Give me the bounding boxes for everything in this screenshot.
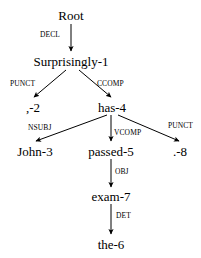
edge-label-e-obj: OBJ bbox=[115, 168, 129, 176]
dependency-tree-diagram: RootSurprisingly-1,-2has-4John-3passed-5… bbox=[0, 0, 201, 258]
edge-label-e-det: DET bbox=[116, 212, 131, 220]
edge-label-e-nsubj: NSUBJ bbox=[28, 124, 51, 132]
edge-label-e-vcomp: VCOMP bbox=[114, 129, 141, 137]
tree-node-period8: .-8 bbox=[173, 145, 187, 158]
tree-node-surprisingly1: Surprisingly-1 bbox=[33, 55, 108, 68]
edge-label-e-decl: DECL bbox=[40, 31, 60, 39]
tree-node-john3: John-3 bbox=[17, 145, 52, 158]
edge-punct-line bbox=[34, 70, 66, 97]
edge-label-e-ccomp: CCOMP bbox=[97, 80, 124, 88]
tree-node-exam7: exam-7 bbox=[92, 190, 131, 203]
tree-node-comma2: ,-2 bbox=[26, 101, 40, 114]
tree-node-the6: the-6 bbox=[98, 238, 125, 251]
edge-label-e-punct-1: PUNCT bbox=[10, 80, 35, 88]
edge-label-e-punct-2: PUNCT bbox=[168, 122, 193, 130]
tree-node-has4: has-4 bbox=[98, 101, 126, 114]
tree-node-passed5: passed-5 bbox=[88, 145, 134, 158]
tree-node-root: Root bbox=[58, 9, 83, 22]
